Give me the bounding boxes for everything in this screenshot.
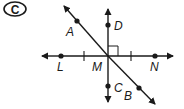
option-badge: C bbox=[4, 2, 26, 17]
point-D bbox=[105, 22, 110, 27]
label-C: C bbox=[114, 81, 123, 95]
label-D: D bbox=[114, 19, 123, 33]
right-angle-marker bbox=[108, 46, 118, 56]
point-A bbox=[74, 18, 79, 23]
label-N: N bbox=[150, 60, 159, 74]
label-M: M bbox=[92, 60, 102, 74]
geometry-diagram: C A B C D L M N bbox=[0, 0, 184, 109]
point-L bbox=[58, 53, 63, 58]
point-B bbox=[136, 85, 141, 90]
label-B: B bbox=[124, 89, 132, 103]
badge-letter: C bbox=[11, 3, 20, 17]
point-C bbox=[105, 83, 110, 88]
label-L: L bbox=[57, 60, 64, 74]
point-N bbox=[152, 53, 157, 58]
label-A: A bbox=[65, 25, 74, 39]
